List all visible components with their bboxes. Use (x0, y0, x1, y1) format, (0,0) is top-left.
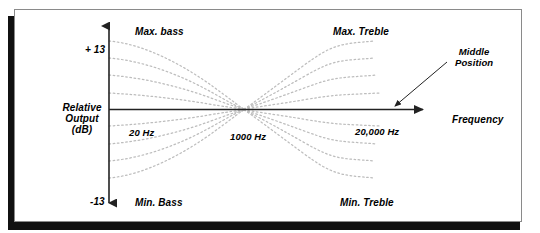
figure-root: Max. bass Max. Treble Min. Bass Min. Tre… (0, 0, 540, 233)
curve-bass-boost-5 (109, 75, 244, 109)
x-axis-tick-left: 20 Hz (129, 128, 154, 139)
curve-treble-boost-2 (244, 93, 379, 109)
middle-position-leader-line (395, 62, 447, 106)
annotation-max-bass: Max. bass (135, 26, 184, 37)
y-axis-tick-bottom: -13 (90, 196, 105, 207)
curve-bass-boost-9 (109, 58, 244, 109)
y-axis-tick-top: + 13 (85, 44, 105, 55)
annotation-min-bass: Min. Bass (135, 197, 183, 208)
curve-treble-boost-9 (244, 58, 375, 109)
annotation-min-treble: Min. Treble (340, 197, 394, 208)
curve-treble-cut-2 (244, 110, 379, 126)
curve-treble-boost-5 (244, 75, 377, 109)
annotation-max-treble: Max. Treble (333, 26, 389, 37)
curve-bass-boost-2 (109, 93, 244, 109)
figure-panel: Max. bass Max. Treble Min. Bass Min. Tre… (14, 9, 522, 222)
x-axis-tick-mid: 1000 Hz (230, 132, 266, 143)
annotation-middle-position: Middle Position (455, 47, 493, 68)
x-axis-title: Frequency (452, 114, 503, 125)
x-axis-tick-right: 20,000 Hz (355, 127, 399, 138)
y-axis-title: Relative Output (dB) (51, 102, 113, 136)
curve-bass-cut-2 (109, 110, 244, 126)
